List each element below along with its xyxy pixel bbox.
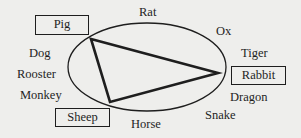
zodiac-ellipse [68, 23, 226, 111]
compatibility-triangle [91, 39, 218, 102]
label-snake: Snake [205, 108, 236, 122]
zodiac-diagram: Rat Ox Tiger Rabbit Dragon Snake Horse S… [0, 0, 301, 138]
label-dragon: Dragon [230, 90, 268, 104]
label-dog: Dog [29, 46, 51, 60]
label-rabbit-box: Rabbit [231, 66, 286, 85]
label-sheep-box: Sheep [55, 108, 110, 127]
label-monkey: Monkey [20, 88, 62, 102]
label-horse: Horse [131, 117, 161, 131]
label-tiger: Tiger [241, 46, 268, 60]
label-ox: Ox [216, 24, 231, 38]
label-rat: Rat [139, 5, 156, 19]
label-pig-box: Pig [35, 15, 89, 35]
label-rooster: Rooster [17, 67, 56, 81]
